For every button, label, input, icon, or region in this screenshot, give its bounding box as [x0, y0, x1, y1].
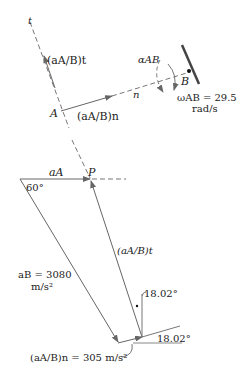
- a-AB-n-label: (aA/B)n: [77, 110, 119, 123]
- angle-bottom-label: 18.02°: [157, 333, 191, 344]
- a-B-vector: [20, 179, 118, 342]
- angle-top-label: 18.02°: [144, 288, 178, 299]
- point-A-label: A: [49, 107, 58, 120]
- a-AB-t-vector: [91, 181, 142, 337]
- point-B-dot: [187, 69, 191, 73]
- angle-60-label: 60°: [26, 182, 44, 193]
- angle-top-dot: [136, 305, 138, 307]
- point-B-label: B: [180, 75, 189, 88]
- link-diagram: t (aA/B)t A (aA/B)n n αAB B ωAB = 29.5 r…: [28, 15, 237, 178]
- n-arrow: [61, 96, 112, 111]
- omega-label: ωAB = 29.5: [177, 92, 237, 103]
- a-AB-n-vector: [118, 337, 142, 343]
- a-AB-t-label: (aA/B)t: [117, 245, 154, 256]
- a-B-label: aB = 3080: [18, 269, 72, 280]
- a-A-label: aA: [49, 166, 64, 179]
- a-AB-n-label: (aA/B)n = 305 m/s²: [30, 352, 127, 363]
- alpha-label: αAB: [138, 54, 159, 65]
- omega-units: rad/s: [192, 103, 218, 114]
- n-label: n: [133, 89, 139, 100]
- kinematics-diagram: t (aA/B)t A (aA/B)n n αAB B ωAB = 29.5 r…: [0, 0, 242, 385]
- a-AB-t-label: (aA/B)t: [47, 54, 87, 67]
- acceleration-polygon: aA P 60° (aA/B)t aB = 3080 m/s² 18.02° 1…: [18, 166, 191, 363]
- point-P-label: P: [87, 166, 96, 179]
- t-axis-label: t: [28, 15, 33, 26]
- a-B-units: m/s²: [31, 281, 53, 292]
